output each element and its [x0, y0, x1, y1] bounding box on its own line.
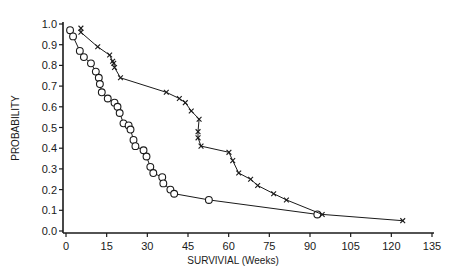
x-tick-label: 135	[423, 240, 441, 252]
x-tick-label: 45	[182, 240, 194, 252]
data-point-circle	[171, 190, 178, 197]
data-point-circle	[116, 110, 123, 117]
series-layer	[67, 26, 405, 223]
data-point-x	[271, 191, 276, 196]
data-point-circle	[143, 153, 150, 160]
data-point-circle	[96, 81, 103, 88]
data-point-x	[284, 198, 289, 203]
x-tick-label: 60	[223, 240, 235, 252]
data-point-circle	[205, 197, 212, 204]
data-point-x	[164, 90, 169, 95]
x-tick-label: 120	[382, 240, 400, 252]
data-point-x	[236, 171, 241, 176]
data-point-circle	[80, 54, 87, 61]
y-axis: 0.00.10.20.30.40.50.60.70.80.91.0	[42, 18, 63, 237]
series-line-circle-group	[70, 30, 317, 214]
x-tick-label: 0	[63, 240, 69, 252]
data-point-x	[255, 183, 260, 188]
data-point-circle	[95, 74, 102, 81]
y-tick-label: 0.7	[42, 80, 57, 92]
data-point-circle	[132, 143, 139, 150]
data-point-x	[183, 100, 188, 105]
data-point-circle	[127, 126, 134, 133]
y-tick-label: 0.2	[42, 184, 57, 196]
series-circle-group	[67, 27, 321, 218]
x-axis: 0153045607590105120135	[63, 233, 441, 252]
y-tick-label: 0.4	[42, 142, 57, 154]
y-tick-label: 1.0	[42, 18, 57, 30]
y-axis-title: PROBABILITY	[10, 95, 21, 161]
x-tick-label: 75	[263, 240, 275, 252]
y-tick-label: 0.3	[42, 163, 57, 175]
data-point-x	[107, 53, 112, 58]
data-point-circle	[160, 180, 167, 187]
x-tick-label: 30	[141, 240, 153, 252]
y-tick-label: 0.1	[42, 204, 57, 216]
data-point-circle	[70, 33, 77, 40]
data-point-circle	[150, 170, 157, 177]
data-point-circle	[76, 48, 83, 55]
x-axis-title: SURVIVIAL (Weeks)	[187, 255, 279, 266]
data-point-x	[95, 44, 100, 49]
data-point-x	[177, 96, 182, 101]
data-point-circle	[98, 89, 105, 96]
x-tick-label: 90	[304, 240, 316, 252]
y-tick-label: 0.0	[42, 225, 57, 237]
x-tick-label: 105	[341, 240, 359, 252]
data-point-circle	[104, 95, 111, 102]
data-point-x	[189, 109, 194, 114]
data-point-circle	[159, 174, 166, 181]
chart: 0.00.10.20.30.40.50.60.70.80.91.0 015304…	[0, 0, 459, 279]
y-tick-label: 0.6	[42, 101, 57, 113]
data-point-x	[248, 177, 253, 182]
y-tick-label: 0.9	[42, 39, 57, 51]
data-point-circle	[88, 60, 95, 67]
x-tick-label: 15	[101, 240, 113, 252]
data-point-x	[230, 158, 235, 163]
y-tick-label: 0.8	[42, 59, 57, 71]
y-tick-label: 0.5	[42, 122, 57, 134]
